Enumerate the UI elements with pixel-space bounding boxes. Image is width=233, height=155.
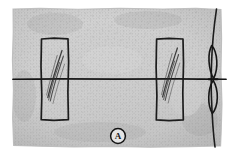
figure-panel-a: A: [0, 0, 233, 155]
horizontal-reference-line: [13, 79, 226, 80]
figure-canvas: A: [0, 0, 233, 155]
panel-letter-A: A: [111, 129, 126, 144]
panel-letter-text: A: [115, 131, 122, 141]
